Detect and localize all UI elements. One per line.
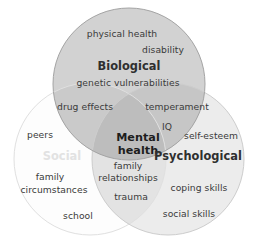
label-family-relationships-line1: family <box>114 161 143 172</box>
label-physical-health: physical health <box>87 29 157 40</box>
label-peers: peers <box>27 130 53 141</box>
label-school: school <box>63 211 93 222</box>
label-coping-skills: coping skills <box>171 183 228 194</box>
circle-title-biological: Biological <box>97 61 160 72</box>
label-trauma: trauma <box>114 192 148 203</box>
label-mental-health-line1: Mental <box>116 132 160 145</box>
label-family-circumstances-line1: family <box>36 172 65 183</box>
label-genetic-vulnerabilities: genetic vulnerabilities <box>76 78 179 89</box>
label-disability: disability <box>142 45 184 56</box>
label-family-circumstances-line2: circumstances <box>21 185 88 196</box>
label-drug-effects: drug effects <box>57 102 113 113</box>
label-self-esteem: self-esteem <box>184 131 238 142</box>
label-temperament: temperament <box>145 102 209 113</box>
venn-diagram: physical health disability Biological ge… <box>0 0 258 244</box>
label-family-relationships-line2: relationships <box>98 173 157 184</box>
circle-title-psychological: Psychological <box>154 151 242 162</box>
label-social-skills: social skills <box>163 209 215 220</box>
label-mental-health-line2: health <box>118 145 159 158</box>
label-iq: IQ <box>162 122 172 133</box>
circle-title-social: Social <box>43 151 82 162</box>
